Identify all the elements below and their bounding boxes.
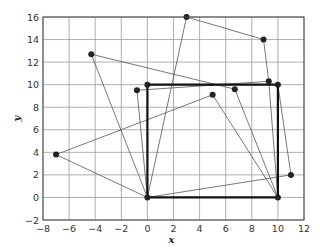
data-point-marker: [232, 86, 238, 92]
data-point-marker: [88, 51, 94, 57]
data-point-marker: [134, 87, 140, 93]
data-point-marker: [53, 152, 59, 158]
y-tick-label: 6: [33, 124, 39, 135]
segment-line: [56, 95, 213, 155]
y-tick-label: 4: [33, 147, 39, 158]
data-point-marker: [210, 92, 216, 98]
x-tick-label: 0: [144, 223, 150, 234]
segment-line: [137, 81, 269, 90]
chart-figure: −8−6−4−2024681012 −20246810121416 x y: [0, 0, 323, 247]
y-tick-label: 10: [27, 79, 39, 90]
square-polyline: [147, 85, 278, 198]
y-tick-labels: −20246810121416: [25, 12, 39, 226]
data-point-marker: [261, 37, 267, 43]
segment-line: [147, 175, 291, 198]
y-tick-label: 8: [33, 102, 39, 113]
x-tick-label: 2: [170, 223, 176, 234]
y-tick-label: 14: [27, 34, 39, 45]
segment-line: [235, 89, 278, 197]
square-outline: [147, 85, 278, 198]
y-tick-label: 12: [27, 57, 39, 68]
x-tick-label: −6: [62, 223, 76, 234]
x-tick-label: −2: [114, 223, 128, 234]
y-tick-label: 16: [27, 12, 39, 23]
segment-line: [56, 155, 147, 198]
segment-line: [91, 54, 147, 197]
x-tick-label: 8: [249, 223, 255, 234]
data-point-marker: [266, 78, 272, 84]
x-tick-labels: −8−6−4−2024681012: [36, 223, 310, 234]
x-tick-label: 6: [223, 223, 229, 234]
segment-line: [264, 40, 269, 82]
y-tick-label: 2: [33, 169, 39, 180]
data-point-marker: [144, 194, 150, 200]
x-tick-label: 10: [272, 223, 284, 234]
y-tick-label: 0: [33, 192, 39, 203]
data-point-marker: [275, 194, 281, 200]
data-point-marker: [275, 82, 281, 88]
data-point-marker: [288, 172, 294, 178]
x-axis-label: x: [168, 234, 176, 245]
y-tick-label: −2: [25, 215, 39, 226]
data-point-marker: [144, 82, 150, 88]
x-tick-label: 4: [197, 223, 203, 234]
x-tick-label: −4: [88, 223, 102, 234]
y-axis-label: y: [11, 114, 22, 122]
segment-line: [269, 81, 278, 197]
x-tick-label: 12: [298, 223, 310, 234]
segment-line: [137, 90, 147, 197]
